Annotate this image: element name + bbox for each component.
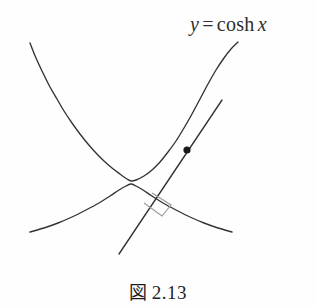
catenary-curve: [30, 42, 238, 181]
equation-variable-y: y: [190, 13, 199, 35]
caption-figure-mark: 図: [129, 282, 148, 303]
catenary-diagram-canvas: [0, 0, 316, 280]
figure-caption: 図2.13: [0, 278, 316, 304]
curve-equation-label: y=coshx: [190, 14, 267, 34]
curves-group: [30, 42, 238, 254]
tangency-point-dot: [183, 146, 190, 153]
figure-container: y=coshx 図2.13: [0, 0, 316, 307]
evolute-curve: [30, 184, 232, 232]
equation-function-name: cosh: [217, 13, 255, 35]
equation-equals-sign: =: [199, 13, 217, 35]
tangent-line: [119, 100, 222, 254]
equation-variable-x: x: [258, 13, 267, 35]
caption-figure-number: 2.13: [152, 282, 187, 303]
